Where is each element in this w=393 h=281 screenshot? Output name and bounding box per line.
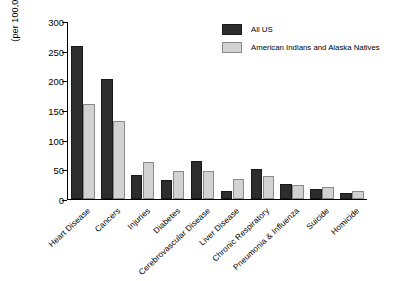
bar bbox=[113, 121, 125, 199]
bar bbox=[131, 175, 143, 199]
bar bbox=[161, 180, 173, 199]
x-axis-label: Suicide bbox=[305, 206, 331, 231]
y-tick-label: 250 bbox=[48, 46, 64, 57]
bar bbox=[251, 169, 263, 199]
bar bbox=[173, 171, 185, 199]
bar bbox=[340, 193, 352, 199]
bar bbox=[263, 176, 275, 199]
bar bbox=[233, 179, 245, 199]
bar-group bbox=[128, 22, 158, 199]
y-tick-label: 150 bbox=[48, 106, 64, 117]
bar-group bbox=[68, 22, 98, 199]
bar-chart-figure: (per 100,000) 050100150200250300 Heart D… bbox=[0, 0, 393, 281]
bar bbox=[191, 161, 203, 199]
x-axis-label: Homicide bbox=[329, 206, 361, 236]
x-axis-label: Heart Disease bbox=[47, 206, 92, 249]
bar bbox=[352, 191, 364, 199]
bar bbox=[322, 187, 334, 199]
bar bbox=[71, 46, 83, 199]
legend-item-all-us: All US bbox=[222, 24, 380, 35]
legend-item-american-indians-alaska-natives: American Indians and Alaska Natives bbox=[222, 42, 380, 53]
x-axis-label: Cancers bbox=[93, 206, 122, 234]
bar bbox=[143, 162, 155, 199]
bar-group bbox=[98, 22, 128, 199]
legend-swatch-all-us bbox=[222, 24, 242, 35]
y-tick-label: 200 bbox=[48, 76, 64, 87]
bar bbox=[280, 184, 292, 199]
x-axis-line bbox=[67, 199, 367, 200]
legend-label-american-indians-alaska-natives: American Indians and Alaska Natives bbox=[251, 43, 380, 52]
y-tick-label: 100 bbox=[48, 135, 64, 146]
bar-group bbox=[188, 22, 218, 199]
bar-group bbox=[158, 22, 188, 199]
bar bbox=[221, 191, 233, 199]
y-tick-label: 300 bbox=[48, 17, 64, 28]
legend-label-all-us: All US bbox=[251, 25, 273, 34]
y-tick-label: 0 bbox=[59, 195, 64, 206]
x-axis-label: Injuries bbox=[126, 206, 152, 231]
bar bbox=[83, 104, 95, 199]
bar bbox=[203, 171, 215, 199]
y-axis-title: (per 100,000) bbox=[10, 0, 24, 74]
y-tick-label: 50 bbox=[53, 165, 64, 176]
chart-legend: All US American Indians and Alaska Nativ… bbox=[222, 24, 380, 60]
bar bbox=[292, 185, 304, 199]
x-axis-label: Diabetes bbox=[151, 206, 181, 235]
legend-swatch-american-indians-alaska-natives bbox=[222, 42, 242, 53]
bar bbox=[310, 189, 322, 199]
bar bbox=[101, 79, 113, 199]
